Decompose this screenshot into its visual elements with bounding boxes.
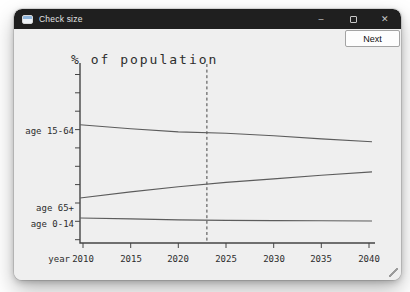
next-button[interactable]: Next — [345, 30, 400, 47]
close-button[interactable]: ✕ — [369, 9, 401, 29]
resize-grip[interactable] — [389, 268, 398, 277]
check-size-window: Check size – ✕ Next % of population age … — [14, 9, 401, 280]
window-controls: – ✕ — [305, 9, 401, 29]
maximize-icon — [350, 16, 357, 23]
screen: Check size – ✕ Next % of population age … — [0, 0, 410, 292]
maximize-button[interactable] — [337, 9, 369, 29]
close-icon: ✕ — [381, 14, 389, 24]
title-bar[interactable]: Check size – ✕ — [14, 9, 401, 29]
app-icon — [22, 15, 33, 24]
minimize-icon: – — [318, 14, 323, 24]
window-title: Check size — [39, 14, 83, 24]
window-body: Next — [14, 29, 401, 280]
minimize-button[interactable]: – — [305, 9, 337, 29]
